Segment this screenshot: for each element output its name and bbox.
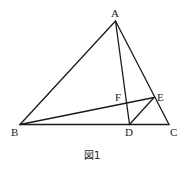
label-E: E — [157, 91, 164, 103]
segment-AC — [116, 21, 170, 125]
label-D: D — [125, 126, 133, 138]
label-F: F — [115, 91, 121, 103]
label-B: B — [11, 126, 18, 138]
label-C: C — [170, 126, 177, 138]
figure-caption: 図1 — [84, 150, 100, 161]
geometry-figure: A B C D E F 図1 — [0, 0, 185, 170]
label-A: A — [111, 7, 119, 19]
segment-AD — [116, 21, 130, 125]
segment-AB — [20, 21, 116, 125]
